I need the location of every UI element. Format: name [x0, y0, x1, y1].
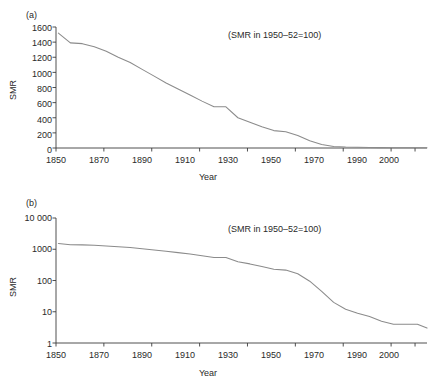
panel-a-ytick-0: 0 — [8, 145, 52, 155]
panel-a-xtick-1990: 1990 — [339, 155, 375, 165]
panel-a-ytick-400: 400 — [8, 115, 52, 125]
panel-b-ytick-10000: 10 000 — [0, 213, 52, 223]
panel-a-xtick-1910: 1910 — [167, 155, 203, 165]
panel-label-b: (b) — [26, 198, 37, 208]
panel-a-ytick-600: 600 — [8, 99, 52, 109]
panel-a-ytick-1400: 1400 — [8, 38, 52, 48]
panel-b-xtick-1890: 1890 — [124, 350, 160, 360]
panel-b-x-axis-title: Year — [178, 368, 238, 378]
panel-a-xtick-1930: 1930 — [210, 155, 246, 165]
panel-b-xtick-1870: 1870 — [81, 350, 117, 360]
figure-smr-trends: (a) (SMR in 1950–52=100) SMR Year 1600 1… — [0, 0, 434, 384]
panel-a-ytick-1000: 1000 — [8, 69, 52, 79]
panel-a-ytick-200: 200 — [8, 130, 52, 140]
panel-b-xtick-2000: 2000 — [371, 350, 407, 360]
panel-b-xtick-1850: 1850 — [38, 350, 74, 360]
chart-panel-a: (a) (SMR in 1950–52=100) SMR Year 1600 1… — [0, 0, 434, 192]
panel-b-xtick-1930: 1930 — [210, 350, 246, 360]
panel-b-ytick-1: 1 — [0, 339, 52, 349]
panel-b-annotation: (SMR in 1950–52=100) — [228, 224, 321, 234]
panel-a-x-axis-title: Year — [178, 172, 238, 182]
panel-b-y-axis-title: SMR — [8, 267, 18, 307]
panel-b-xtick-1990: 1990 — [339, 350, 375, 360]
panel-b-xtick-1950: 1950 — [253, 350, 289, 360]
panel-a-xtick-1850: 1850 — [38, 155, 74, 165]
panel-b-xtick-1970: 1970 — [296, 350, 332, 360]
panel-a-xtick-1870: 1870 — [81, 155, 117, 165]
panel-b-ytick-100: 100 — [0, 276, 52, 286]
data-series-0 — [58, 33, 427, 148]
panel-a-ytick-800: 800 — [8, 84, 52, 94]
panel-a-ytick-1600: 1600 — [8, 23, 52, 33]
panel-label-a: (a) — [26, 10, 37, 20]
panel-a-xtick-2000: 2000 — [371, 155, 407, 165]
panel-a-xtick-1970: 1970 — [296, 155, 332, 165]
panel-a-annotation: (SMR in 1950–52=100) — [228, 30, 321, 40]
chart-panel-b: (b) (SMR in 1950–52=100) SMR Year 10 000… — [0, 192, 434, 384]
panel-a-xtick-1950: 1950 — [253, 155, 289, 165]
panel-a-ytick-1200: 1200 — [8, 53, 52, 63]
panel-a-xtick-1890: 1890 — [124, 155, 160, 165]
data-series-0 — [58, 244, 427, 329]
panel-b-ytick-10: 10 — [0, 307, 52, 317]
panel-b-ytick-1000: 1000 — [0, 244, 52, 254]
panel-b-xtick-1910: 1910 — [167, 350, 203, 360]
